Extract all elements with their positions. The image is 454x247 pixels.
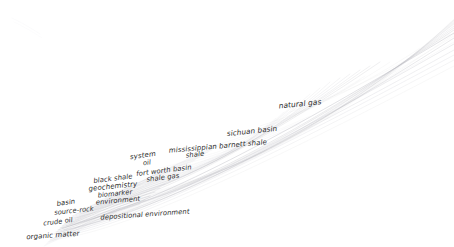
node-crude-oil[interactable]: crude oil — [43, 217, 73, 227]
node-depositional-environment[interactable]: depositional environment — [100, 208, 190, 221]
node-oil[interactable]: oil — [143, 159, 152, 167]
node-source-rock[interactable]: source-rock — [54, 206, 94, 217]
node-mississippian-barnett-shale[interactable]: mississippian barnett shale — [169, 139, 268, 155]
graph-canvas: organic matter crude oil basin source-ro… — [0, 0, 454, 247]
node-sichuan-basin[interactable]: sichuan basin — [226, 125, 277, 137]
node-natural-gas[interactable]: natural gas — [278, 98, 321, 110]
node-organic-matter[interactable]: organic matter — [26, 231, 80, 242]
